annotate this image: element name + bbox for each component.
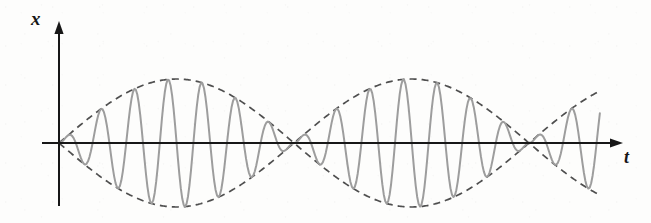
y-axis-label: x: [31, 9, 41, 28]
plot-canvas: [0, 0, 651, 223]
horizontal-axis-arrowhead: [610, 138, 623, 147]
vertical-axis-arrowhead: [54, 21, 63, 34]
beats-figure: x t: [0, 0, 651, 223]
envelope-lower-curve: [59, 143, 599, 207]
x-axis-label: t: [624, 148, 629, 166]
